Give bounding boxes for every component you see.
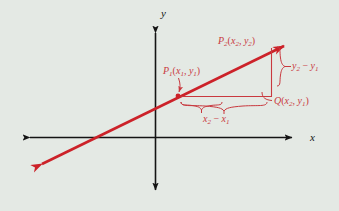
- run-x2-sub: 2: [207, 118, 211, 126]
- point-label-p2: P2(x2, y2): [218, 36, 255, 46]
- q-arg-x-sub: 2: [289, 100, 293, 108]
- p1-leader-arrow: [179, 78, 181, 92]
- p2-paren-close: ): [252, 35, 255, 46]
- q-paren-close: ): [305, 95, 308, 106]
- p2-subscript: 2: [224, 40, 228, 48]
- x-axis-label: x: [310, 132, 315, 143]
- p1-arg-y-sub: 1: [193, 70, 197, 78]
- point-p1-dot: [176, 94, 181, 99]
- rise-brace: [277, 47, 291, 86]
- rise-label: y2 − y1: [292, 61, 319, 71]
- secant-line: [42, 46, 284, 164]
- run-label: x2 − x1: [203, 114, 230, 124]
- slope-diagram-figure: y x P2(x2, y2) P1(x1, y1) Q(x2, y1) y2 −…: [0, 0, 339, 211]
- p1-subscript: 1: [169, 70, 173, 78]
- q-arg-y-sub: 1: [302, 100, 306, 108]
- p2-arg-y-sub: 2: [248, 40, 252, 48]
- p1-arg-x-sub: 1: [180, 70, 184, 78]
- point-label-p1: P1(x1, y1): [163, 66, 200, 76]
- p2-arg-x-sub: 2: [235, 40, 239, 48]
- y-axis-label: y: [161, 8, 166, 19]
- point-label-q: Q(x2, y1): [274, 96, 309, 106]
- p1-paren-close: ): [197, 65, 200, 76]
- run-x1-sub: 1: [226, 118, 230, 126]
- rise-y2-sub: 2: [296, 65, 300, 73]
- rise-y1-sub: 1: [315, 65, 319, 73]
